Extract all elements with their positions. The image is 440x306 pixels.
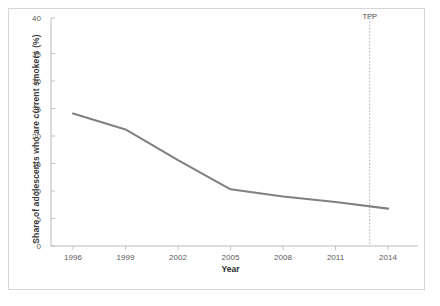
- y-tick-label-35: 35: [15, 50, 41, 59]
- tpp-annotation-label: TPP: [355, 12, 385, 21]
- x-axis-title: Year: [171, 264, 291, 274]
- plot-area: [9, 9, 426, 291]
- x-tick-label-1999: 1999: [103, 253, 149, 262]
- x-tick-marks: [73, 246, 388, 250]
- smoking-trend-line: [73, 114, 388, 209]
- y-tick-label-20: 20: [15, 132, 41, 141]
- x-tick-label-2002: 2002: [155, 253, 201, 262]
- x-tick-label-1996: 1996: [50, 253, 96, 262]
- y-tick-marks: [51, 18, 55, 246]
- y-tick-label-10: 10: [15, 187, 41, 196]
- x-tick-label-2014: 2014: [365, 253, 411, 262]
- y-tick-label-5: 5: [15, 215, 41, 224]
- y-tick-label-25: 25: [15, 105, 41, 114]
- y-tick-label-40: 40: [15, 14, 41, 23]
- x-tick-label-2005: 2005: [208, 253, 254, 262]
- chart-figure: Share of adolescents who are current smo…: [0, 0, 440, 306]
- y-tick-label-0: 0: [15, 242, 41, 251]
- chart-frame: Share of adolescents who are current smo…: [8, 8, 425, 290]
- x-tick-label-2011: 2011: [313, 253, 359, 262]
- y-tick-label-15: 15: [15, 160, 41, 169]
- x-tick-label-2008: 2008: [260, 253, 306, 262]
- y-tick-label-30: 30: [15, 77, 41, 86]
